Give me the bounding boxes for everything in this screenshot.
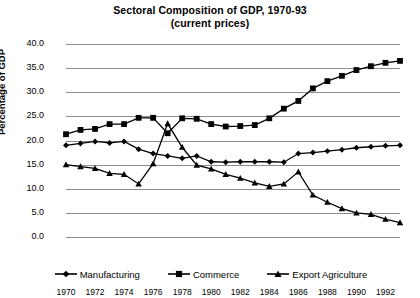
data-point-marker	[339, 73, 345, 79]
legend-label: Export Agriculture	[292, 269, 367, 280]
chart-legend: ManufacturingCommerceExport Agriculture	[0, 268, 420, 280]
x-axis-tick-label: 1972	[86, 287, 105, 297]
data-point-marker	[266, 115, 272, 121]
x-axis-tick-label: 1990	[347, 287, 366, 297]
data-point-marker	[136, 146, 142, 152]
data-point-marker	[92, 126, 98, 132]
x-axis-tick-label: 1992	[376, 287, 395, 297]
data-point-marker	[223, 124, 229, 130]
data-point-marker	[194, 153, 200, 159]
x-axis-tick-label: 1976	[144, 287, 163, 297]
x-axis-tick-label: 1986	[289, 287, 308, 297]
series-line	[66, 141, 400, 162]
legend-item-export-agriculture[interactable]: Export Agriculture	[265, 268, 367, 280]
series-export-agriculture	[63, 120, 404, 225]
series-layer	[66, 44, 400, 237]
data-point-marker	[121, 138, 127, 144]
chart-container: Sectoral Composition of GDP, 1970-93 (cu…	[0, 0, 420, 298]
gridline	[66, 237, 400, 238]
data-point-marker	[179, 155, 185, 161]
data-point-marker	[150, 115, 156, 121]
data-point-marker	[281, 106, 287, 112]
chart-subtitle: (current prices)	[0, 17, 420, 30]
x-axis-tick-label: 1970	[57, 287, 76, 297]
x-axis-tick-label: 1980	[202, 287, 221, 297]
data-point-marker	[252, 159, 258, 165]
data-point-marker	[324, 148, 330, 154]
data-point-marker	[63, 142, 69, 148]
y-axis-tick-label: 5.0	[0, 207, 44, 217]
legend-marker-diamond-icon	[53, 268, 79, 280]
data-point-marker	[310, 192, 317, 198]
plot-area: 40.035.030.025.020.015.010.05.00.0 19701…	[66, 44, 400, 237]
data-point-marker	[281, 159, 287, 165]
data-point-marker	[208, 159, 214, 165]
data-point-marker	[368, 63, 374, 69]
data-point-marker	[237, 123, 243, 129]
y-axis-tick-label: 25.0	[0, 110, 44, 120]
data-point-marker	[397, 142, 403, 148]
data-point-marker	[179, 144, 186, 150]
data-point-marker	[339, 147, 345, 153]
data-point-marker	[107, 121, 113, 127]
y-axis-tick-label: 0.0	[0, 231, 44, 241]
legend-marker-triangle-icon	[265, 268, 291, 280]
y-axis-tick-label: 10.0	[0, 183, 44, 193]
data-point-marker	[237, 159, 243, 165]
data-point-marker	[383, 60, 389, 66]
data-point-marker	[310, 150, 316, 156]
x-axis-tick-label: 1974	[115, 287, 134, 297]
data-point-marker	[324, 199, 331, 205]
chart-title-line1: Sectoral Composition of GDP, 1970-93	[113, 4, 307, 16]
data-point-marker	[295, 169, 302, 175]
data-point-marker	[165, 153, 171, 159]
data-point-marker	[150, 160, 157, 166]
y-axis-tick-label: 30.0	[0, 86, 44, 96]
data-point-marker	[295, 151, 301, 157]
data-point-marker	[150, 151, 156, 157]
series-line	[66, 61, 400, 134]
data-point-marker	[397, 58, 403, 64]
legend-marker-square-icon	[166, 268, 192, 280]
series-line	[66, 124, 400, 223]
data-point-marker	[223, 159, 229, 165]
data-point-marker	[179, 115, 185, 121]
data-point-marker	[107, 140, 113, 146]
data-point-marker	[78, 140, 84, 146]
legend-label: Commerce	[193, 269, 239, 280]
data-point-marker	[194, 116, 200, 122]
data-point-marker	[208, 121, 214, 127]
data-point-marker	[164, 120, 171, 126]
data-point-marker	[354, 67, 360, 73]
legend-item-commerce[interactable]: Commerce	[166, 268, 239, 280]
y-axis-tick-label: 40.0	[0, 38, 44, 48]
data-point-marker	[92, 138, 98, 144]
series-manufacturing	[63, 138, 403, 165]
data-point-marker	[63, 131, 69, 137]
x-axis-tick-label: 1988	[318, 287, 337, 297]
data-point-marker	[353, 145, 359, 151]
chart-title: Sectoral Composition of GDP, 1970-93 (cu…	[0, 4, 420, 30]
legend-item-manufacturing[interactable]: Manufacturing	[53, 268, 140, 280]
data-point-marker	[78, 127, 84, 133]
data-point-marker	[295, 98, 301, 104]
data-point-marker	[165, 130, 171, 136]
data-point-marker	[324, 78, 330, 84]
y-axis-tick-label: 15.0	[0, 159, 44, 169]
data-point-marker	[252, 122, 258, 128]
data-point-marker	[121, 121, 127, 127]
data-point-marker	[368, 144, 374, 150]
y-axis-tick-label: 35.0	[0, 62, 44, 72]
series-commerce	[63, 58, 403, 137]
y-axis-tick-label: 20.0	[0, 135, 44, 145]
data-point-marker	[136, 115, 142, 121]
legend-label: Manufacturing	[80, 269, 140, 280]
x-axis-tick-label: 1984	[260, 287, 279, 297]
data-point-marker	[310, 85, 316, 91]
data-point-marker	[266, 159, 272, 165]
x-axis-tick-label: 1982	[231, 287, 250, 297]
x-axis-tick-label: 1978	[173, 287, 192, 297]
data-point-marker	[382, 143, 388, 149]
